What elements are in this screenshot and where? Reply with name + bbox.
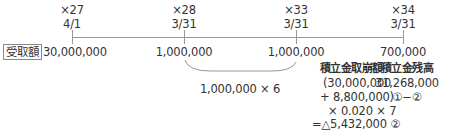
withdrawal-line-2: + 8,800,000)	[320, 90, 394, 104]
withdrawal-line-3: × 0.020 × 7	[328, 104, 396, 118]
balance-formula: ①−②	[392, 90, 422, 104]
withdrawal-result: =△5,432,000 ②	[312, 117, 400, 131]
withdrawal-title: 積立金取崩額	[320, 62, 383, 76]
brace-note: 1,000,000 × 6	[200, 82, 280, 96]
balance-value: 31,268,000	[375, 76, 439, 90]
balance-title: 積立金残高	[381, 62, 434, 76]
